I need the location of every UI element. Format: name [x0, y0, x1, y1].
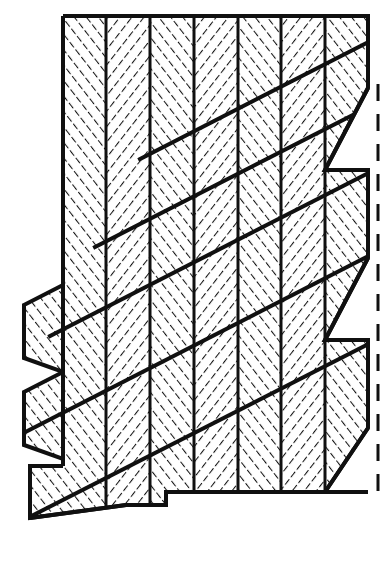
- left-tabs-label-text: protruding step tabs: [2, 29, 55, 35]
- technical-drawing: Stepped scarf joint in hatched laminate …: [0, 0, 388, 565]
- figure-root: Stepped scarf joint in hatched laminate …: [0, 0, 388, 565]
- centerline-label-text: dashed centerline: [2, 45, 50, 51]
- plies-label-text: vertical plies: [2, 13, 35, 19]
- figure-title-text: Stepped scarf joint in hatched laminate: [2, 5, 106, 11]
- scarf-label-text: scarf diagonals: [2, 21, 42, 27]
- right-notches-label-text: stepped notches at centerline: [2, 37, 81, 43]
- bottom-step-label-text: bottom stepped cut: [2, 53, 53, 59]
